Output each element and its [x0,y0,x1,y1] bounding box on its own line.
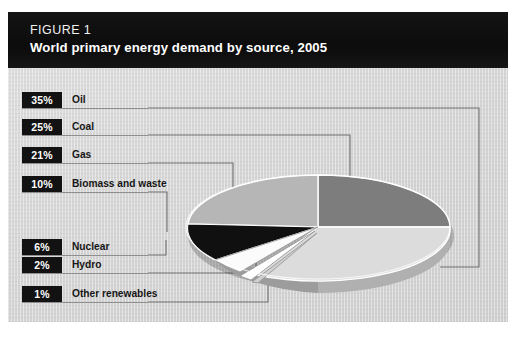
pie-slice-coal [318,175,450,227]
pie-chart [8,12,508,322]
legend-item-nuclear[interactable]: 6% Nuclear [22,239,148,256]
figure-container: FIGURE 1 World primary energy demand by … [8,12,508,322]
legend-label-coal: Coal [72,119,94,135]
pie-slice-gas [188,175,318,227]
pie-slices [188,175,451,283]
legend-rule [22,135,148,136]
legend-rule [22,108,148,109]
legend-item-biomass[interactable]: 10% Biomass and waste [22,176,148,193]
legend-rule [22,302,148,303]
legend-value-oil: 35% [22,92,62,108]
legend-label-other-renewables: Other renewables [72,286,158,302]
legend-item-oil[interactable]: 35% Oil [22,92,148,109]
legend-value-other-renewables: 1% [22,286,62,302]
legend-rule [22,273,148,274]
legend-label-nuclear: Nuclear [72,239,109,255]
legend-item-hydro[interactable]: 2% Hydro [22,257,148,274]
legend-value-hydro: 2% [22,257,62,273]
legend-value-coal: 25% [22,119,62,135]
legend-label-hydro: Hydro [72,257,101,273]
legend-value-biomass: 10% [22,176,62,192]
legend-item-other-renewables[interactable]: 1% Other renewables [22,286,148,303]
legend-value-gas: 21% [22,147,62,163]
legend-rule [22,163,148,164]
legend-value-nuclear: 6% [22,239,62,255]
legend-rule [22,255,148,256]
legend-label-oil: Oil [72,92,86,108]
legend-rule [22,192,148,193]
legend-label-gas: Gas [72,147,91,163]
legend-item-coal[interactable]: 25% Coal [22,119,148,136]
legend-label-biomass: Biomass and waste [72,176,167,192]
legend-item-gas[interactable]: 21% Gas [22,147,148,164]
